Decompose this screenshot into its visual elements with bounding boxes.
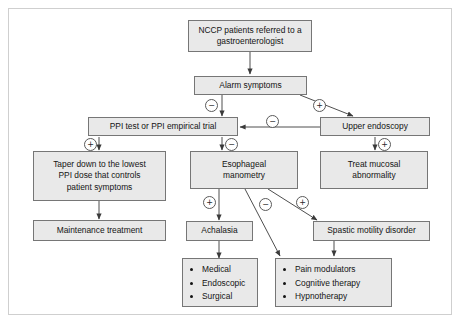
list-item: Medical: [202, 264, 250, 276]
list-item: Surgical: [202, 291, 250, 303]
node-spastic-label: Spastic motility disorder: [327, 225, 415, 236]
node-mucosal-label: Treat mucosalabnormality: [348, 159, 401, 181]
sign-ppi-negative: −: [225, 138, 238, 151]
sign-glyph: −: [228, 140, 235, 149]
sign-endoscopy-negative: −: [266, 115, 279, 128]
node-manometry-label: Esophagealmanometry: [222, 159, 266, 181]
sign-glyph: −: [269, 117, 276, 126]
node-achalasia-label: Achalasia: [201, 225, 237, 236]
sign-glyph: +: [316, 101, 323, 110]
diagram-canvas: NCCP patients referred to agastroenterol…: [0, 0, 461, 325]
node-taper-ppi-dose[interactable]: Taper down to the lowestPPI dose that co…: [33, 151, 166, 201]
list-item: Cognitive therapy: [295, 278, 384, 290]
sign-endoscopy-positive: +: [378, 138, 391, 151]
node-maintenance-treatment[interactable]: Maintenance treatment: [33, 220, 166, 241]
node-ppi-label: PPI test or PPI empirical trial: [110, 121, 217, 132]
node-achalasia-treatments[interactable]: Medical Endoscopic Surgical: [182, 258, 258, 307]
achalasia-treatment-list: Medical Endoscopic Surgical: [192, 264, 250, 303]
sign-glyph: +: [87, 140, 94, 149]
node-spastic-treatments[interactable]: Pain modulators Cognitive therapy Hypnot…: [275, 258, 392, 307]
sign-alarm-negative: −: [205, 99, 218, 112]
node-nccp-label: NCCP patients referred to agastroenterol…: [198, 25, 301, 47]
sign-glyph: −: [262, 200, 269, 209]
node-alarm-label: Alarm symptoms: [219, 80, 281, 91]
node-nccp-patients[interactable]: NCCP patients referred to agastroenterol…: [188, 20, 312, 52]
sign-alarm-positive: +: [313, 99, 326, 112]
node-spastic-motility-disorder[interactable]: Spastic motility disorder: [313, 221, 430, 241]
node-alarm-symptoms[interactable]: Alarm symptoms: [194, 76, 307, 95]
sign-glyph: +: [299, 198, 306, 207]
sign-glyph: +: [206, 198, 213, 207]
list-item: Pain modulators: [295, 264, 384, 276]
node-esophageal-manometry[interactable]: Esophagealmanometry: [190, 151, 298, 189]
sign-glyph: +: [381, 140, 388, 149]
node-taper-label: Taper down to the lowestPPI dose that co…: [53, 159, 146, 193]
list-item: Hypnotherapy: [295, 291, 384, 303]
node-endoscopy-label: Upper endoscopy: [342, 121, 408, 132]
sign-ppi-positive: +: [84, 138, 97, 151]
sign-glyph: −: [208, 101, 215, 110]
node-maintenance-label: Maintenance treatment: [57, 225, 143, 236]
node-upper-endoscopy[interactable]: Upper endoscopy: [320, 117, 430, 136]
sign-manometry-negative: −: [259, 198, 272, 211]
list-item: Endoscopic: [202, 278, 250, 290]
spastic-treatment-list: Pain modulators Cognitive therapy Hypnot…: [285, 264, 384, 303]
sign-manometry-spastic-positive: +: [296, 196, 309, 209]
sign-manometry-positive: +: [203, 196, 216, 209]
node-achalasia[interactable]: Achalasia: [186, 221, 253, 241]
node-ppi-test[interactable]: PPI test or PPI empirical trial: [88, 117, 238, 136]
node-treat-mucosal-abnormality[interactable]: Treat mucosalabnormality: [320, 151, 428, 189]
